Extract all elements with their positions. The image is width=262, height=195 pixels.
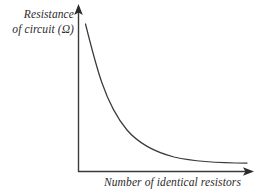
y-axis-label-line-1: Resistance: [6, 7, 74, 22]
resistance-curve: [86, 24, 248, 163]
x-axis-label: Number of identical resistors: [104, 175, 241, 190]
y-axis-label-line-2: of circuit (Ω): [6, 22, 74, 37]
y-axis-label: Resistance of circuit (Ω): [6, 7, 74, 37]
graph-figure: Resistance of circuit (Ω) Number of iden…: [0, 0, 262, 195]
